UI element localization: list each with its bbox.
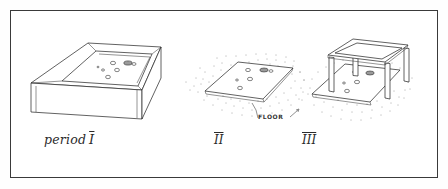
period-one-caption: periodI	[44, 132, 94, 147]
figure-root: periodI II III FLOOR	[0, 0, 448, 189]
panel-3-structure	[300, 39, 413, 120]
panel-1-block	[31, 43, 161, 119]
period-three-caption: III	[302, 133, 316, 147]
illustration-canvas	[0, 0, 448, 189]
period-word: period	[44, 132, 86, 147]
period-one-numeral: I	[86, 132, 94, 147]
period-two-caption: II	[214, 133, 223, 147]
panel-2-floor	[186, 54, 305, 118]
floor-pointer-arrow	[290, 110, 298, 117]
floor-callout-label: FLOOR	[258, 113, 284, 120]
